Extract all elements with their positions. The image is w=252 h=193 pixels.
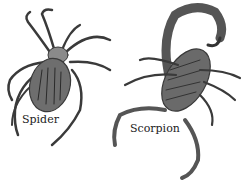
scorpion-label: Scorpion <box>130 122 180 135</box>
scorpion-drawing <box>114 8 240 178</box>
drawings <box>0 0 252 193</box>
spider-label: Spider <box>22 113 59 126</box>
arachnid-illustration: Spider Scorpion <box>0 0 252 193</box>
